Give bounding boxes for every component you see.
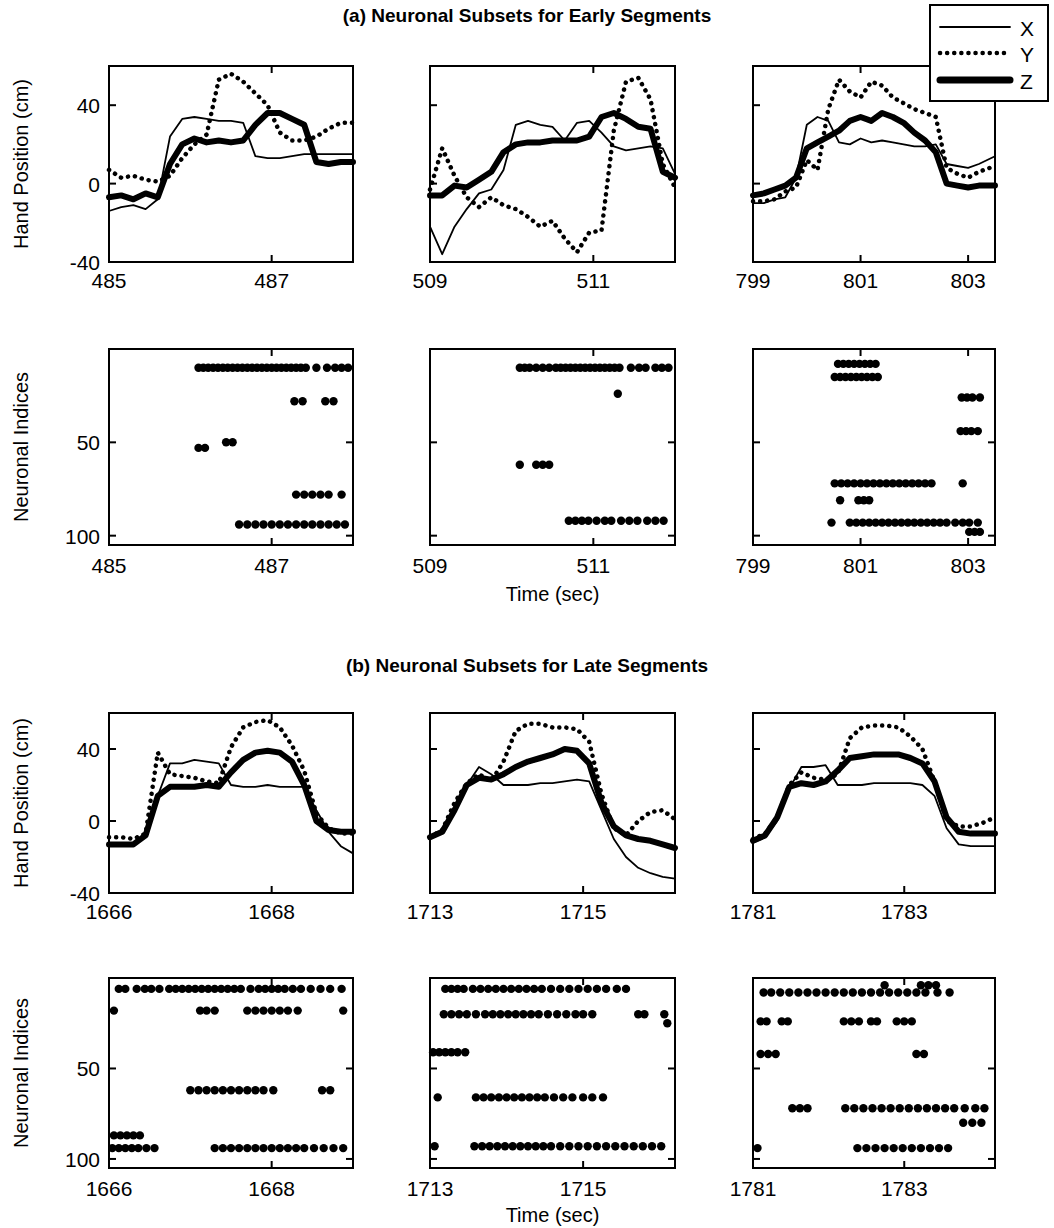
raster-panel-a-2: 799801803 [735, 349, 995, 577]
x-tick-label: 1783 [881, 1177, 928, 1200]
section-title-b: (b) Neuronal Subsets for Late Segments [346, 655, 708, 676]
spike-dot [876, 988, 884, 996]
spike-dot [284, 1144, 292, 1152]
spike-dot [235, 1086, 243, 1094]
spike-dot [251, 1006, 259, 1014]
x-tick-label: 1666 [86, 1177, 133, 1200]
spike-dot [324, 490, 332, 498]
spike-dot [785, 988, 793, 996]
spike-dot [912, 988, 920, 996]
spike-dot [544, 1010, 552, 1018]
spike-dot [484, 985, 492, 993]
position-panel-a-1: 509511 [412, 66, 675, 292]
spike-dot [147, 985, 155, 993]
spike-dot [648, 1142, 656, 1150]
x-tick-label: 799 [735, 269, 770, 292]
spike-dot [447, 1010, 455, 1018]
spike-dot [276, 520, 284, 528]
spike-dot [980, 1104, 988, 1112]
spike-dot [440, 1010, 448, 1018]
ylabel-hand-position-b: Hand Position (cm) [10, 718, 32, 888]
spike-dot [640, 1010, 648, 1018]
spike-dot [268, 1006, 276, 1014]
spike-dot [524, 1142, 532, 1150]
x-tick-label: 1783 [881, 900, 928, 923]
spike-dot [803, 988, 811, 996]
spike-dot [917, 1144, 925, 1152]
xlabel-time-b: Time (sec) [506, 1204, 600, 1226]
spike-dot [945, 988, 953, 996]
spike-dot [756, 1050, 764, 1058]
raster-panel-b-0: 5010016661668 [65, 978, 353, 1200]
spike-dot [894, 988, 902, 996]
spike-dot [944, 1144, 952, 1152]
raster-panel-a-0: 50100485487 [65, 349, 353, 577]
spike-dot [259, 1144, 267, 1152]
series-line-Z [753, 113, 995, 195]
x-tick-label: 1666 [86, 900, 133, 923]
spike-dot [942, 518, 950, 526]
spike-dot [841, 1104, 849, 1112]
spike-dot [926, 1144, 934, 1152]
spike-dot [269, 1086, 277, 1094]
spike-dot [827, 518, 835, 526]
spike-dot [853, 1144, 861, 1152]
spike-dot [643, 517, 651, 525]
xlabel-time-a: Time (sec) [506, 583, 600, 605]
spike-dot [871, 360, 879, 368]
spike-dot [588, 1010, 596, 1018]
spike-dot [849, 988, 857, 996]
y-tick-label: 100 [65, 525, 100, 548]
spike-dot [588, 1093, 596, 1101]
spike-dot [607, 517, 615, 525]
legend: XYZ [930, 5, 1048, 101]
spike-dot [539, 1142, 547, 1150]
spike-dot [847, 1017, 855, 1025]
spike-dot [489, 1010, 497, 1018]
spike-dot [298, 397, 306, 405]
legend-label-X: X [1020, 17, 1034, 40]
spike-dot [968, 1119, 976, 1127]
spike-dot [976, 393, 984, 401]
spike-dot [344, 364, 352, 372]
spike-dot [538, 985, 546, 993]
series-line-Z [109, 751, 353, 845]
series-line-Z [430, 113, 675, 195]
series-line-Y [430, 724, 675, 837]
spike-dot [469, 985, 477, 993]
spike-dot [463, 1010, 471, 1018]
spike-dot [479, 1093, 487, 1101]
position-panel-b-0: 400-4016661668 [70, 713, 353, 923]
spike-dot [571, 1010, 579, 1018]
x-tick-label: 485 [91, 269, 126, 292]
section-a: (a) Neuronal Subsets for Early Segments [343, 5, 712, 26]
spike-dot [460, 985, 468, 993]
spike-dot [759, 988, 767, 996]
spike-dot [753, 1144, 761, 1152]
figure-root: (a) Neuronal Subsets for Early Segments(… [0, 0, 1054, 1228]
series-line-Z [430, 749, 675, 848]
spike-dot [284, 520, 292, 528]
spike-dot [121, 985, 129, 993]
spike-dot [625, 517, 633, 525]
spike-dot [831, 988, 839, 996]
spike-dot [259, 1006, 267, 1014]
spike-dot [660, 1010, 668, 1018]
spike-dot [812, 988, 820, 996]
spike-dot [476, 985, 484, 993]
spike-dot [764, 1050, 772, 1058]
spike-dot [243, 1086, 251, 1094]
spike-dot [932, 1104, 940, 1112]
spike-dot [316, 520, 324, 528]
y-tick-label: 0 [88, 173, 100, 196]
series-line-X [753, 117, 995, 203]
x-tick-label: 803 [951, 269, 986, 292]
spike-dot [977, 1119, 985, 1127]
spike-dot [461, 1048, 469, 1056]
spike-dot [499, 985, 507, 993]
spike-dot [300, 1144, 308, 1152]
spike-dot [519, 1010, 527, 1018]
spike-dot [633, 517, 641, 525]
spike-dot [509, 1142, 517, 1150]
spike-dot [556, 985, 564, 993]
